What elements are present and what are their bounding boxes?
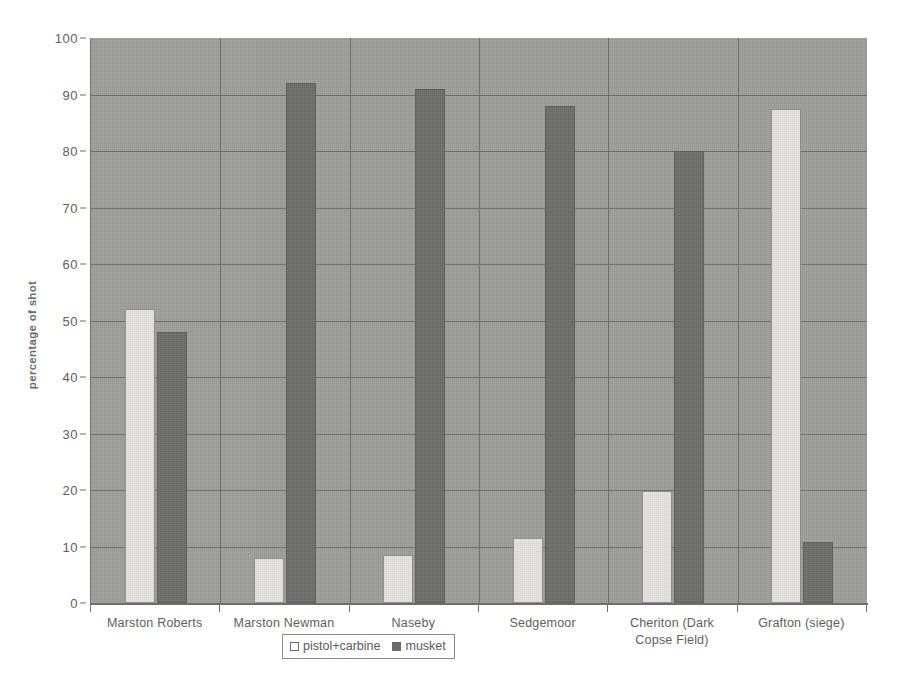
- y-tick-label: 90: [63, 87, 78, 102]
- x-tick-label-line: Grafton (siege): [737, 615, 866, 632]
- legend-item: musket: [392, 639, 445, 653]
- y-tick-label: 30: [63, 426, 78, 441]
- y-tick-label: 10: [63, 539, 78, 554]
- y-axis-ticks: 0102030405060708090100: [52, 38, 86, 603]
- open-square-marker-icon: [290, 642, 299, 651]
- chart-legend: pistol+carbinemusket: [282, 634, 455, 659]
- y-tick-mark: [80, 94, 86, 95]
- bar-chart-figure: percentage of shot 010203040506070809010…: [0, 0, 904, 680]
- bar-pistol-carbine-cheriton-dark-copse-field-: [642, 491, 672, 603]
- x-tick-mark: [349, 603, 350, 612]
- y-tick-mark: [80, 264, 86, 265]
- bar-musket-naseby: [415, 89, 445, 603]
- x-tick-label-line: Marston Roberts: [90, 615, 219, 632]
- x-tick-mark: [478, 603, 479, 612]
- legend-label: pistol+carbine: [303, 639, 380, 653]
- y-tick-mark: [80, 207, 86, 208]
- legend-item: pistol+carbine: [290, 639, 380, 653]
- y-tick-mark: [80, 603, 86, 604]
- bar-pistol-carbine-marston-newman: [254, 558, 284, 603]
- y-tick-mark: [80, 546, 86, 547]
- bar-pistol-carbine-naseby: [383, 555, 413, 603]
- y-tick-label: 60: [63, 257, 78, 272]
- x-tick-label-line: Copse Field): [607, 632, 736, 649]
- y-tick-label: 50: [63, 313, 78, 328]
- bar-pistol-carbine-sedgemoor: [513, 538, 543, 603]
- bar-musket-sedgemoor: [545, 106, 575, 603]
- y-tick-mark: [80, 320, 86, 321]
- y-tick-mark: [80, 377, 86, 378]
- y-tick-mark: [80, 151, 86, 152]
- legend-label: musket: [405, 639, 445, 653]
- x-tick-mark: [607, 603, 608, 612]
- x-tick-mark: [90, 603, 91, 612]
- x-tick-label: Cheriton (DarkCopse Field): [607, 615, 736, 649]
- y-axis-title-text: percentage of shot: [26, 281, 38, 389]
- filled-square-marker-icon: [392, 642, 401, 651]
- bar-pistol-carbine-grafton-siege-: [771, 109, 801, 603]
- bar-musket-marston-roberts: [157, 332, 187, 603]
- gridline-vertical: [738, 38, 739, 603]
- x-axis-line: [90, 603, 868, 605]
- bar-musket-cheriton-dark-copse-field-: [674, 151, 704, 603]
- bar-pistol-carbine-marston-roberts: [125, 309, 155, 603]
- y-tick-label: 80: [63, 144, 78, 159]
- bar-musket-grafton-siege-: [803, 542, 833, 603]
- x-tick-label: Naseby: [349, 615, 478, 632]
- x-tick-label-line: Sedgemoor: [478, 615, 607, 632]
- x-tick-label: Marston Roberts: [90, 615, 219, 632]
- x-tick-mark: [219, 603, 220, 612]
- y-tick-label: 0: [70, 596, 78, 611]
- gridline-vertical: [479, 38, 480, 603]
- x-tick-mark: [737, 603, 738, 612]
- y-tick-label: 100: [55, 31, 78, 46]
- y-tick-label: 70: [63, 200, 78, 215]
- plot-area: [90, 38, 867, 603]
- x-tick-label-line: Marston Newman: [219, 615, 348, 632]
- y-tick-mark: [80, 38, 86, 39]
- x-tick-label: Grafton (siege): [737, 615, 866, 632]
- x-tick-label-line: Naseby: [349, 615, 478, 632]
- y-tick-mark: [80, 433, 86, 434]
- y-tick-mark: [80, 490, 86, 491]
- gridline-vertical: [608, 38, 609, 603]
- gridline-vertical: [220, 38, 221, 603]
- gridline-vertical: [350, 38, 351, 603]
- y-tick-label: 20: [63, 483, 78, 498]
- x-tick-mark: [866, 603, 867, 612]
- y-tick-label: 40: [63, 370, 78, 385]
- bar-musket-marston-newman: [286, 83, 316, 603]
- x-tick-label: Sedgemoor: [478, 615, 607, 632]
- y-axis-title: percentage of shot: [22, 250, 42, 420]
- x-tick-label: Marston Newman: [219, 615, 348, 632]
- x-tick-label-line: Cheriton (Dark: [607, 615, 736, 632]
